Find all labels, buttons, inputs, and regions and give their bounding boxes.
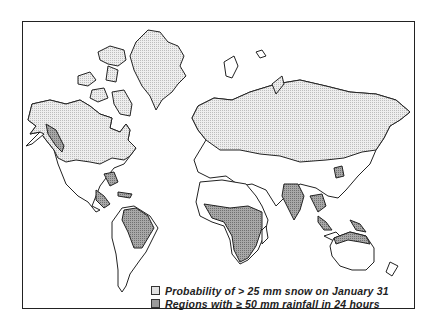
snow-swatch bbox=[151, 286, 160, 295]
arctic-islands bbox=[98, 46, 126, 66]
legend-item-snow: Probability of > 25 mm snow on January 3… bbox=[151, 284, 389, 297]
legend-label-rain: Regions with ≥ 50 mm rainfall in 24 hour… bbox=[165, 298, 380, 310]
legend-label-snow: Probability of > 25 mm snow on January 3… bbox=[165, 285, 389, 297]
legend: Probability of > 25 mm snow on January 3… bbox=[151, 284, 389, 310]
legend-item-rain: Regions with ≥ 50 mm rainfall in 24 hour… bbox=[151, 297, 389, 310]
world-map bbox=[0, 0, 436, 329]
rain-swatch bbox=[151, 299, 160, 308]
greenland bbox=[130, 30, 186, 110]
